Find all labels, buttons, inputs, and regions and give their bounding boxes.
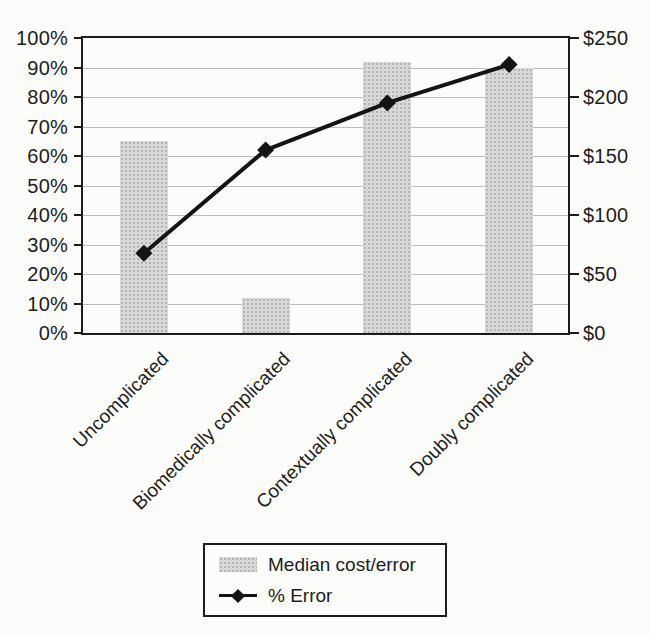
right-tick-100 [570, 214, 579, 216]
left-tick-10 [74, 303, 83, 305]
line-diamond-icon [219, 588, 257, 603]
left-tick-30 [74, 244, 83, 246]
bar-doubly-complicated [485, 68, 533, 334]
left-tick-0 [74, 332, 83, 334]
plot-area [81, 36, 570, 335]
left-axis-label-60: 60% [6, 145, 68, 167]
x-label-doubly-complicated: Doubly complicated [406, 348, 539, 481]
right-axis-label-100: $100 [583, 204, 628, 226]
left-axis-label-90: 90% [6, 57, 68, 79]
left-axis-label-0: 0% [6, 322, 68, 344]
left-axis-label-40: 40% [6, 204, 68, 226]
right-tick-50 [570, 273, 579, 275]
right-axis-label-0: $0 [583, 322, 606, 344]
left-tick-50 [74, 185, 83, 187]
x-label-uncomplicated: Uncomplicated [69, 348, 173, 452]
diamond-marker-icon [231, 588, 245, 602]
right-tick-200 [570, 96, 579, 98]
legend-item-median-cost: Median cost/error [219, 554, 445, 576]
left-axis-label-30: 30% [6, 234, 68, 256]
right-tick-150 [570, 155, 579, 157]
right-tick-250 [570, 37, 579, 39]
left-axis-label-70: 70% [6, 116, 68, 138]
right-axis-label-200: $200 [583, 86, 628, 108]
left-axis-label-20: 20% [6, 263, 68, 285]
legend: Median cost/error % Error [203, 543, 447, 617]
left-tick-100 [74, 37, 83, 39]
bar-uncomplicated [120, 141, 168, 333]
right-tick-0 [570, 332, 579, 334]
legend-item-percent-error: % Error [219, 585, 445, 607]
left-axis-label-80: 80% [6, 86, 68, 108]
left-tick-20 [74, 273, 83, 275]
left-tick-90 [74, 67, 83, 69]
left-tick-60 [74, 155, 83, 157]
bar-contextually-complicated [363, 62, 411, 333]
right-axis-label-150: $150 [583, 145, 628, 167]
left-tick-70 [74, 126, 83, 128]
right-axis-label-250: $250 [583, 27, 628, 49]
bar-biomedically-complicated [242, 298, 290, 333]
legend-label-median-cost: Median cost/error [268, 554, 416, 576]
legend-label-percent-error: % Error [268, 585, 332, 607]
left-tick-80 [74, 96, 83, 98]
bar-swatch-icon [219, 557, 257, 572]
left-axis-label-10: 10% [6, 293, 68, 315]
left-tick-40 [74, 214, 83, 216]
left-axis-label-100: 100% [6, 27, 68, 49]
chart-canvas: 0%10%20%30%40%50%60%70%80%90%100%$0$50$1… [0, 0, 650, 635]
right-axis-label-50: $50 [583, 263, 617, 285]
left-axis-label-50: 50% [6, 175, 68, 197]
